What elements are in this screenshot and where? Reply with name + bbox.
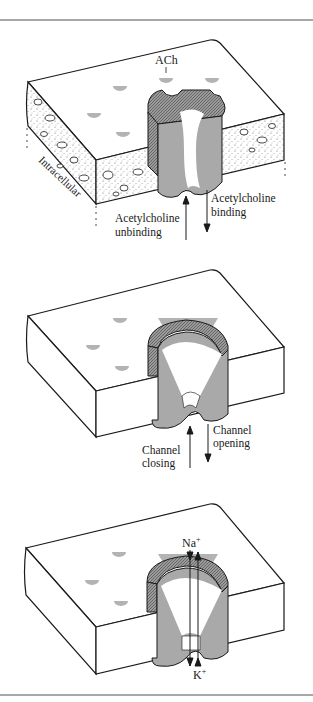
ach-label: ACh — [155, 53, 178, 67]
figure-ach-receptor: ACh Intracellular Acetylcholine binding … — [0, 0, 313, 702]
panel-2: Channel opening Channel closing — [27, 270, 285, 470]
binding-arrows — [183, 190, 210, 240]
diagram-canvas: ACh Intracellular Acetylcholine binding … — [0, 0, 313, 702]
panel-3: Na+ K+ — [25, 504, 285, 682]
potassium-ion-label: K+ — [193, 667, 207, 682]
receptor-channel-closed — [148, 90, 225, 197]
channel-closing-label: Channel closing — [142, 444, 183, 470]
gating-arrows — [187, 424, 211, 468]
acetylcholine-binding-label: Acetylcholine binding — [211, 192, 278, 219]
acetylcholine-unbinding-label: Acetylcholine unbinding — [115, 212, 182, 239]
receptor-channel-bound — [148, 318, 228, 428]
receptor-channel-open — [147, 554, 228, 666]
panel-1: ACh Intracellular Acetylcholine binding … — [27, 40, 286, 240]
channel-opening-label: Channel opening — [213, 424, 254, 450]
